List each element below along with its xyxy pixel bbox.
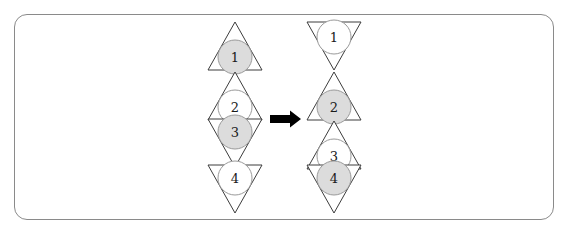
after-configuration-group: 1234 bbox=[0, 0, 570, 235]
triangle-cell-4: 4 bbox=[307, 161, 361, 213]
figure-canvas: 1234 1234 bbox=[0, 0, 570, 235]
triangle-cell-1: 1 bbox=[307, 20, 361, 70]
triangle-cell-2: 2 bbox=[307, 72, 361, 124]
circle-2-shaded bbox=[317, 90, 351, 124]
circle-4-shaded bbox=[317, 161, 351, 195]
circle-1-empty bbox=[317, 20, 351, 54]
